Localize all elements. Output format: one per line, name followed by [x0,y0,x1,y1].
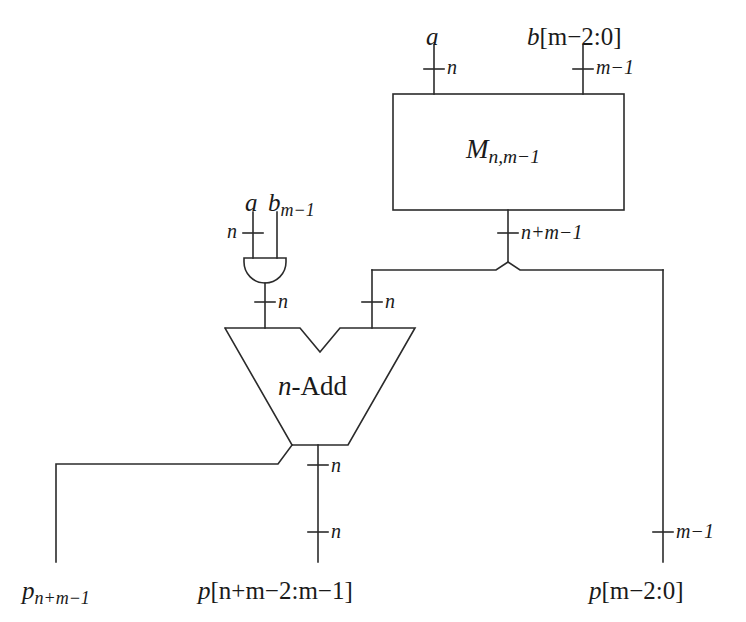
wire-carry-out [56,445,292,562]
and-a-width-label: n [227,221,237,241]
adder-out-lower-width-label: n [331,521,341,541]
and-gate-body [244,258,286,283]
circuit-diagram: a n b[m−2:0] m−1 Mn,m−1 n+m−1 a bm−1 n n… [0,0,746,622]
adder-label: n-Add [278,373,347,400]
sum-output-label: p[n+m−2:m−1] [198,578,353,603]
adder-out-upper-width-label: n [331,455,341,475]
bus-splitter [372,262,663,270]
and-out-width-label: n [278,291,288,311]
adder-in-right-width-label: n [385,291,395,311]
wire-layer [0,0,746,622]
and-a-label: a [245,190,258,215]
mult-out-width-label: n+m−1 [521,222,582,242]
carry-output-label: pn+m−1 [22,578,90,607]
multiplier-block-label: Mn,m−1 [466,136,540,167]
mult-a-label: a [426,24,439,49]
mult-b-label: b[m−2:0] [527,24,622,49]
mult-a-width-label: n [447,57,457,77]
mult-b-width-label: m−1 [596,57,634,77]
and-b-label: bm−1 [268,190,315,219]
low-output-label: p[m−2:0] [589,578,684,603]
low-bits-width-label: m−1 [676,521,714,541]
